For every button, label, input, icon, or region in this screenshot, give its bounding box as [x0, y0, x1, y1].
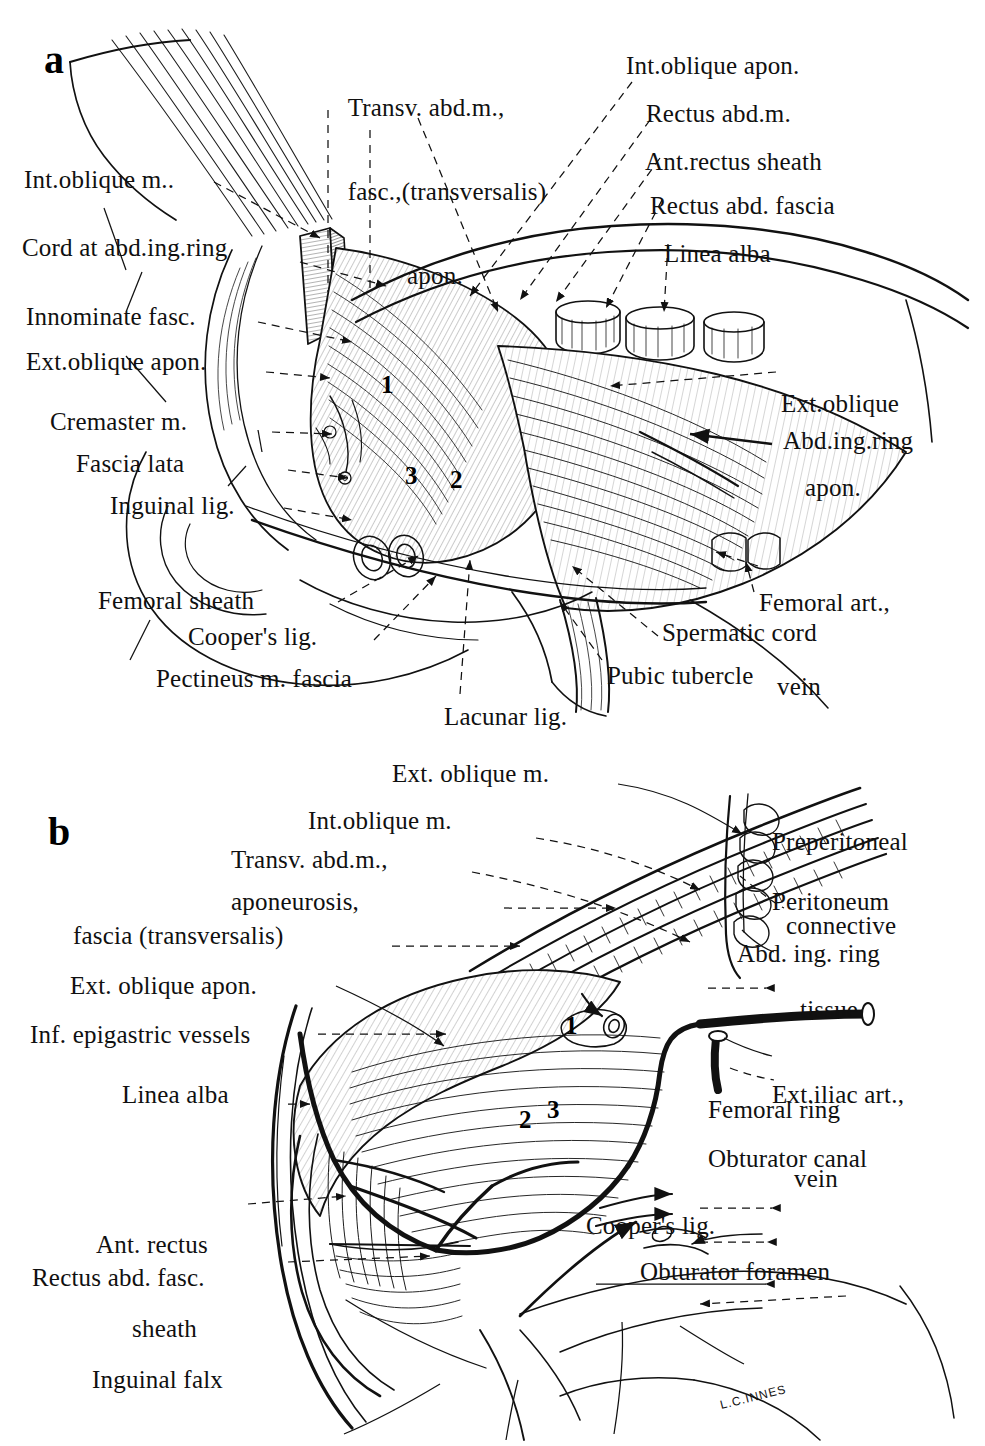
label-abd-ing-ring-a: Abd.ing.ring — [783, 427, 913, 455]
label-fascia-lata-a: Fascia lata — [76, 450, 184, 478]
label-spermatic-cord-a: Spermatic cord — [662, 619, 817, 647]
label-coopers-lig-a: Cooper's lig. — [188, 623, 317, 651]
label-ext-oblique-apon-b: Ext. oblique apon. — [70, 972, 257, 1000]
label-ext-oblique-m-b: Ext. oblique m. — [392, 760, 549, 788]
marker-1-panel-a: 1 — [381, 371, 394, 399]
label-transv-abd-m-b: Transv. abd.m., — [231, 846, 388, 874]
label-pectineus-m-fascia-a: Pectineus m. fascia — [156, 665, 352, 693]
label-ext-iliac-art-b: Ext.iliac art., vein — [772, 1025, 904, 1249]
label-innominate-fasc-a: Innominate fasc. — [26, 303, 196, 331]
label-inguinal-falx-b: Inguinal falx — [92, 1366, 223, 1394]
label-abd-ing-ring-b: Abd. ing. ring — [737, 940, 880, 968]
label-femoral-ring-b: Femoral ring — [708, 1096, 840, 1124]
label-ext-oblique-apon-left-a: Ext.oblique apon. — [26, 348, 206, 376]
label-femoral-sheath-a: Femoral sheath — [98, 587, 254, 615]
label-inguinal-lig-a: Inguinal lig. — [110, 492, 235, 520]
label-cord-at-abd-ing-ring-a: Cord at abd.ing.ring — [22, 234, 227, 262]
marker-3-panel-b: 3 — [547, 1096, 560, 1124]
marker-2-panel-b: 2 — [519, 1106, 532, 1134]
label-int-oblique-m-b: Int.oblique m. — [308, 807, 452, 835]
label-rectus-abd-fascia-a: Rectus abd. fascia — [650, 192, 835, 220]
label-rectus-abd-m-a: Rectus abd.m. — [646, 100, 791, 128]
marker-2-panel-a: 2 — [450, 466, 463, 494]
label-obturator-foramen-b: Obturator foramen — [640, 1258, 830, 1286]
label-linea-alba-b: Linea alba — [122, 1081, 229, 1109]
marker-1-panel-b: 1 — [565, 1012, 578, 1040]
label-peritoneum-b: Peritoneum — [772, 888, 889, 916]
label-cremaster-m-a: Cremaster m. — [50, 408, 187, 436]
panel-a-letter: a — [44, 36, 64, 83]
label-ant-rectus-sheath-a: Ant.rectus sheath — [645, 148, 822, 176]
label-transv-abd-m-a: Transv. abd.m., fasc.,(transversalis) ap… — [226, 38, 626, 346]
label-int-oblique-apon-a: Int.oblique apon. — [626, 52, 800, 80]
label-fascia-transversalis-b: fascia (transversalis) — [73, 922, 284, 950]
anatomical-plate: a Transv. abd.m., fasc.,(transversalis) … — [0, 0, 985, 1446]
label-rectus-abd-fasc-b: Rectus abd. fasc. — [32, 1264, 205, 1292]
marker-3-panel-a: 3 — [405, 462, 418, 490]
label-aponeurosis-b: aponeurosis, — [231, 888, 359, 916]
label-coopers-lig-b: Cooper's lig. — [586, 1212, 715, 1240]
label-linea-alba-a: Linea alba — [664, 240, 771, 268]
label-inf-epigastric-vessels-b: Inf. epigastric vessels — [30, 1021, 251, 1049]
label-pubic-tubercle-a: Pubic tubercle — [607, 662, 754, 690]
panel-b-letter: b — [48, 808, 70, 855]
label-lacunar-lig-a: Lacunar lig. — [444, 703, 567, 731]
label-obturator-canal-b: Obturator canal — [708, 1145, 867, 1173]
label-int-oblique-m-a: Int.oblique m.. — [24, 166, 174, 194]
